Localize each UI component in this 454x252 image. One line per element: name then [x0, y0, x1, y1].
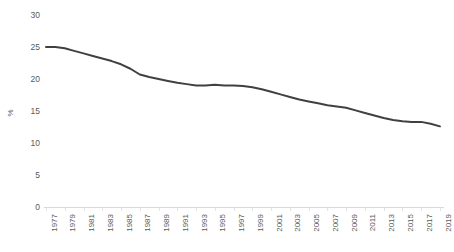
x-axis-tick-mark — [140, 208, 141, 211]
x-axis-tick-mark — [65, 208, 66, 211]
x-axis-tick-mark — [46, 208, 47, 211]
line-chart: % 302520151050 1977197919811983198519871… — [0, 0, 454, 252]
plot-area — [46, 15, 440, 207]
x-axis-tick-mark — [309, 208, 310, 211]
data-series-line — [46, 15, 440, 207]
y-axis-tick-label: 10 — [20, 139, 40, 148]
x-axis-tick-mark — [234, 208, 235, 211]
x-axis-tick-label: 2003 — [293, 214, 303, 248]
x-axis-tick-mark — [365, 208, 366, 211]
x-axis-tick-label: 1989 — [162, 214, 172, 248]
x-axis-tick-mark — [440, 208, 441, 211]
x-axis-tick-label: 2017 — [425, 214, 435, 248]
y-axis-title: % — [2, 104, 20, 122]
x-axis-tick-label: 1983 — [106, 214, 116, 248]
x-axis-tick-label: 2001 — [275, 214, 285, 248]
y-axis-tick-label: 5 — [20, 171, 40, 180]
x-axis-tick-label: 2005 — [312, 214, 322, 248]
x-axis-tick-mark — [384, 208, 385, 211]
x-axis-tick-label: 1981 — [87, 214, 97, 248]
x-axis-tick-label: 1999 — [256, 214, 266, 248]
x-axis-tick-mark — [402, 208, 403, 211]
x-axis-tick-mark — [84, 208, 85, 211]
x-axis-tick-mark — [159, 208, 160, 211]
x-axis-tick-label: 1993 — [200, 214, 210, 248]
x-axis-tick-label: 1977 — [50, 214, 60, 248]
x-axis-tick-mark — [346, 208, 347, 211]
y-axis-tick-label: 0 — [20, 203, 40, 212]
x-axis-tick-label: 1991 — [181, 214, 191, 248]
y-axis-tick-label: 20 — [20, 75, 40, 84]
x-axis-tick-mark — [421, 208, 422, 211]
x-axis-tick-label: 1995 — [218, 214, 228, 248]
x-axis-tick-label: 1997 — [237, 214, 247, 248]
x-axis-tick-mark — [327, 208, 328, 211]
y-axis-tick-label: 30 — [20, 11, 40, 20]
x-axis-tick-label: 2013 — [387, 214, 397, 248]
x-axis-tick-mark — [177, 208, 178, 211]
x-axis-tick-label: 1987 — [143, 214, 153, 248]
x-axis-tick-label: 2019 — [444, 214, 454, 248]
x-axis-tick-mark — [290, 208, 291, 211]
y-axis-tick-label: 25 — [20, 43, 40, 52]
x-axis-tick-label: 2011 — [368, 214, 378, 248]
y-axis-tick-label: 15 — [20, 107, 40, 116]
x-axis-tick-mark — [252, 208, 253, 211]
x-axis-tick-label: 2009 — [350, 214, 360, 248]
x-axis-tick-label: 2007 — [331, 214, 341, 248]
x-axis-tick-label: 1985 — [125, 214, 135, 248]
x-axis-tick-label: 2015 — [406, 214, 416, 248]
x-axis-tick-mark — [121, 208, 122, 211]
x-axis-tick-mark — [271, 208, 272, 211]
x-axis-tick-mark — [102, 208, 103, 211]
x-axis-tick-mark — [215, 208, 216, 211]
x-axis-tick-label: 1979 — [68, 214, 78, 248]
x-axis-tick-mark — [196, 208, 197, 211]
